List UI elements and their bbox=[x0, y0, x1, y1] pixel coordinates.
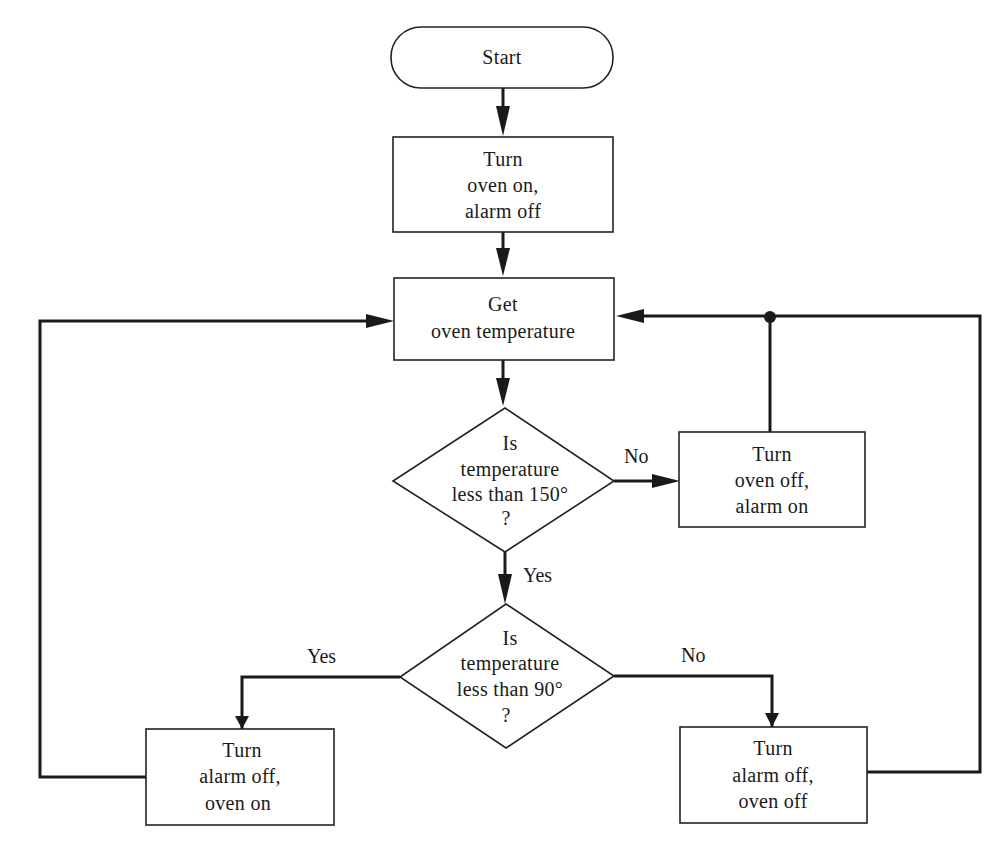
svg-text:Is: Is bbox=[502, 627, 517, 649]
svg-text:?: ? bbox=[501, 704, 510, 726]
node-overheat-line-2: alarm on bbox=[736, 495, 809, 517]
node-check90-line-0: Is bbox=[502, 627, 517, 649]
svg-text:oven on,: oven on, bbox=[467, 174, 538, 196]
node-init-line-0: Turn bbox=[483, 148, 522, 170]
node-check150-line-3: ? bbox=[501, 507, 510, 529]
node-gettemp-line-0: Get bbox=[488, 293, 518, 315]
node-init: Turn oven on, alarm off bbox=[393, 137, 613, 232]
arrowhead-right-icon bbox=[652, 474, 680, 488]
node-init-line-2: alarm off bbox=[465, 200, 541, 222]
arrowhead-down-icon bbox=[235, 716, 249, 729]
node-heat-line-1: alarm off, bbox=[199, 765, 281, 787]
svg-text:Start: Start bbox=[482, 46, 521, 68]
node-start-line-0: Start bbox=[482, 46, 521, 68]
svg-text:oven temperature: oven temperature bbox=[431, 320, 575, 343]
node-heat-line-2: oven on bbox=[205, 792, 271, 814]
node-get-temp: Get oven temperature bbox=[394, 278, 614, 360]
node-check90-line-1: temperature bbox=[461, 652, 560, 675]
svg-text:oven off: oven off bbox=[738, 790, 807, 812]
node-check150-line-0: Is bbox=[502, 432, 517, 454]
node-check90-line-3: ? bbox=[501, 704, 510, 726]
edge-check90-hold bbox=[614, 676, 772, 728]
edge-label-check90-yes: Yes bbox=[307, 645, 336, 667]
svg-text:Turn: Turn bbox=[222, 739, 261, 761]
edge-heat-return bbox=[40, 321, 378, 777]
arrowhead-down-icon bbox=[498, 574, 512, 604]
node-heat: Turn alarm off, oven on bbox=[146, 729, 334, 825]
node-overheat-line-0: Turn bbox=[752, 443, 791, 465]
svg-text:Turn: Turn bbox=[483, 148, 522, 170]
svg-text:less than 90°: less than 90° bbox=[457, 678, 563, 700]
node-check150: Is temperature less than 150° ? bbox=[393, 408, 614, 552]
node-hold: Turn alarm off, oven off bbox=[680, 727, 867, 823]
node-gettemp-line-1: oven temperature bbox=[431, 320, 575, 343]
svg-text:alarm off,: alarm off, bbox=[199, 765, 281, 787]
arrowhead-down-icon bbox=[496, 248, 510, 276]
edge-label-check150-no: No bbox=[624, 445, 648, 467]
node-check90-line-2: less than 90° bbox=[457, 678, 563, 700]
arrowhead-left-icon bbox=[616, 309, 644, 323]
svg-text:oven off,: oven off, bbox=[735, 469, 810, 491]
node-check150-line-1: temperature bbox=[461, 458, 560, 481]
node-hold-line-1: alarm off, bbox=[732, 764, 814, 786]
node-hold-line-2: oven off bbox=[738, 790, 807, 812]
svg-text:temperature: temperature bbox=[461, 458, 560, 481]
node-check150-line-2: less than 150° bbox=[452, 483, 569, 505]
svg-text:alarm off,: alarm off, bbox=[732, 764, 814, 786]
arrowhead-down-icon bbox=[765, 713, 779, 727]
svg-text:oven on: oven on bbox=[205, 792, 271, 814]
node-heat-line-0: Turn bbox=[222, 739, 261, 761]
svg-text:Turn: Turn bbox=[753, 737, 792, 759]
svg-text:temperature: temperature bbox=[461, 652, 560, 675]
arrowhead-right-icon bbox=[366, 314, 394, 328]
edge-label-check90-no: No bbox=[681, 644, 705, 666]
edge-hold-return bbox=[630, 316, 980, 772]
node-init-line-1: oven on, bbox=[467, 174, 538, 196]
node-overheat: Turn oven off, alarm on bbox=[679, 432, 865, 527]
node-overheat-line-1: oven off, bbox=[735, 469, 810, 491]
node-check90: Is temperature less than 90° ? bbox=[400, 604, 614, 748]
svg-text:?: ? bbox=[501, 507, 510, 529]
edge-check90-heat bbox=[242, 677, 400, 730]
svg-text:less than 150°: less than 150° bbox=[452, 483, 569, 505]
svg-text:Get: Get bbox=[488, 293, 518, 315]
svg-text:Is: Is bbox=[502, 432, 517, 454]
svg-text:Turn: Turn bbox=[752, 443, 791, 465]
svg-text:alarm off: alarm off bbox=[465, 200, 541, 222]
node-start: Start bbox=[391, 27, 613, 88]
edge-label-check150-yes: Yes bbox=[523, 564, 552, 586]
svg-text:alarm on: alarm on bbox=[736, 495, 809, 517]
arrowhead-down-icon bbox=[496, 378, 510, 406]
arrowhead-down-icon bbox=[496, 106, 510, 136]
node-hold-line-0: Turn bbox=[753, 737, 792, 759]
